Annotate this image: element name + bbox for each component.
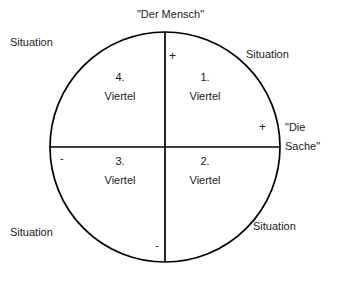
quadrant-label-2: 2. Viertel [173,152,237,190]
situation-label-top-right: Situation [246,48,289,61]
situation-label-bottom-right: Situation [253,220,296,233]
quadrant-label-1-number: 1. [173,68,237,87]
quadrant-label-3-number: 3. [88,152,152,171]
quadrant-label-1-word: Viertel [173,87,237,106]
axis-label-der-mensch: "Der Mensch" [0,8,341,21]
quadrant-label-4-word: Viertel [88,87,152,106]
quadrant-label-4-number: 4. [88,68,152,87]
quadrant-label-3-word: Viertel [88,171,152,190]
situation-label-top-left: Situation [10,36,53,49]
quadrant-label-3: 3. Viertel [88,152,152,190]
axis-label-die-sache-line2: Sache" [285,137,341,156]
polarity-sign-right-positive: + [259,121,266,133]
quadrant-label-2-number: 2. [173,152,237,171]
polarity-sign-top-positive: + [169,50,176,62]
axis-label-die-sache-line1: "Die [285,121,305,133]
situation-label-bottom-left: Situation [10,226,53,239]
quadrant-label-2-word: Viertel [173,171,237,190]
polarity-sign-left-negative: - [60,152,64,164]
quadrant-label-1: 1. Viertel [173,68,237,106]
axis-label-die-sache: "Die Sache" [285,118,341,156]
quadrant-label-4: 4. Viertel [88,68,152,106]
polarity-sign-bottom-negative: - [155,239,159,251]
